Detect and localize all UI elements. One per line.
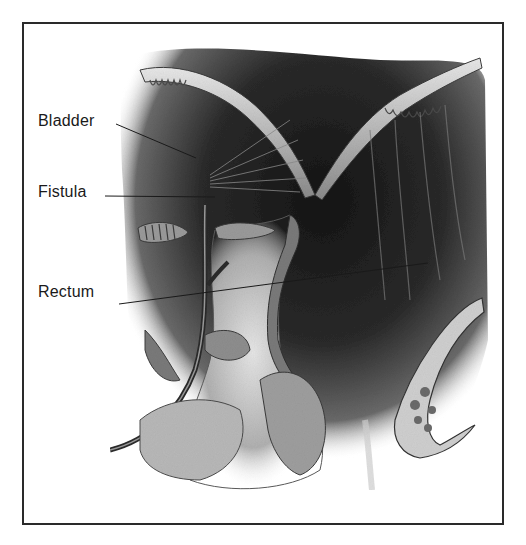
tissue-layers — [110, 49, 488, 490]
label-bladder: Bladder — [38, 112, 95, 130]
anatomy-illustration — [0, 0, 526, 545]
label-rectum: Rectum — [38, 283, 94, 301]
label-fistula: Fistula — [38, 183, 87, 201]
